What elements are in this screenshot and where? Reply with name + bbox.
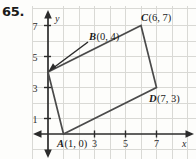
- y-tick-label-7: 7: [33, 21, 38, 32]
- point-d-letter: D: [148, 93, 157, 104]
- problem-number: 65.: [2, 5, 24, 19]
- y-tick-label-5: 5: [33, 52, 38, 63]
- point-d-coords: (7, 3): [157, 93, 180, 105]
- exercise-figure-panel: 65.: [0, 0, 196, 159]
- point-label-a: A(1, 0): [56, 138, 88, 150]
- point-label-c: C(6, 7): [141, 12, 172, 24]
- plot-background: [32, 6, 196, 159]
- x-tick-label-3: 3: [92, 138, 97, 149]
- x-tick-label-7: 7: [154, 138, 159, 149]
- point-c-coords: (6, 7): [149, 12, 172, 24]
- coordinate-plane-svg: 7 5 3 1 3 5 7 y x A(1, 0) B(0, 4) C(6, 7…: [32, 6, 196, 159]
- x-axis-label: x: [181, 138, 187, 149]
- point-label-d: D(7, 3): [148, 93, 180, 105]
- y-tick-label-3: 3: [33, 83, 38, 94]
- y-axis-label: y: [54, 13, 60, 24]
- point-a-letter: A: [56, 138, 64, 149]
- point-a-coords: (1, 0): [65, 138, 88, 150]
- point-b-letter: B: [88, 31, 96, 42]
- x-tick-label-5: 5: [123, 138, 128, 149]
- coordinate-grid-figure: 7 5 3 1 3 5 7 y x A(1, 0) B(0, 4) C(6, 7…: [32, 6, 196, 159]
- y-tick-label-1: 1: [33, 114, 38, 125]
- point-label-b: B(0, 4): [88, 31, 120, 43]
- point-b-coords: (0, 4): [97, 31, 120, 43]
